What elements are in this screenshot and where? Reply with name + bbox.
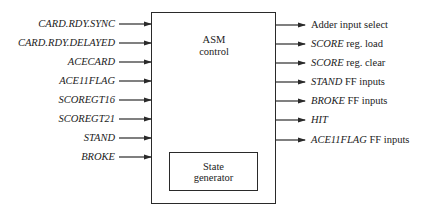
input-label: CARD.RDY.SYNC: [38, 18, 115, 30]
output-arrows: [276, 25, 305, 140]
asm-title-line1: ASM: [152, 34, 276, 46]
output-label: ACE11FLAG FF inputs: [311, 134, 409, 146]
state-generator-line2: generator: [170, 172, 257, 184]
input-label: SCOREGT16: [58, 94, 115, 106]
output-label: SCORE reg. load: [311, 38, 383, 50]
output-label: HIT: [311, 114, 328, 126]
asm-title-line2: control: [152, 46, 276, 58]
input-label: CARD.RDY.DELAYED: [18, 37, 115, 49]
input-arrows: [119, 24, 151, 157]
output-label: BROKE FF inputs: [311, 95, 387, 107]
input-label: BROKE: [81, 151, 115, 163]
input-label: SCOREGT21: [58, 113, 115, 125]
output-label: Adder input select: [311, 19, 388, 31]
input-label: STAND: [84, 132, 115, 144]
output-label: SCORE reg. clear: [311, 57, 385, 69]
input-label: ACE11FLAG: [59, 75, 115, 87]
input-label: ACECARD: [68, 56, 115, 68]
output-label: STAND FF inputs: [311, 76, 385, 88]
